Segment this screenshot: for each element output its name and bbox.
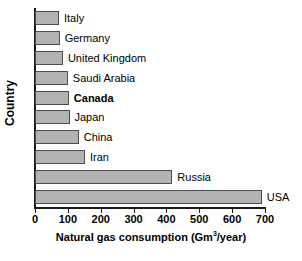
x-axis-title: Natural gas consumption (Gm3/year) bbox=[0, 230, 302, 243]
bar-row: Japan bbox=[35, 110, 265, 124]
bar-chart: Country ItalyGermanyUnited KingdomSaudi … bbox=[0, 0, 302, 261]
bar bbox=[35, 51, 63, 65]
bar-row: Germany bbox=[35, 31, 265, 45]
bar bbox=[35, 110, 70, 124]
bar-row: Saudi Arabia bbox=[35, 71, 265, 85]
bar bbox=[35, 31, 60, 45]
bar-label: United Kingdom bbox=[68, 51, 146, 65]
bar-row: United Kingdom bbox=[35, 51, 265, 65]
bar-row: Canada bbox=[35, 91, 265, 105]
y-axis-title: Country bbox=[0, 0, 20, 205]
bar bbox=[35, 71, 68, 85]
x-axis-tick-label: 400 bbox=[157, 213, 175, 225]
x-axis-title-suffix: /year) bbox=[217, 231, 246, 243]
bar bbox=[35, 150, 85, 164]
x-axis-tick-label: 700 bbox=[256, 213, 274, 225]
bar-label: Italy bbox=[64, 11, 84, 25]
bar bbox=[35, 190, 262, 204]
x-axis-title-prefix: Natural gas consumption (Gm bbox=[56, 231, 213, 243]
bar bbox=[35, 130, 79, 144]
plot-area: ItalyGermanyUnited KingdomSaudi ArabiaCa… bbox=[35, 8, 265, 207]
bar-row: Russia bbox=[35, 170, 265, 184]
bar bbox=[35, 11, 59, 25]
bar-label: Japan bbox=[75, 110, 105, 124]
bar-row: Italy bbox=[35, 11, 265, 25]
bar-label: Russia bbox=[177, 170, 211, 184]
y-axis-title-text: Country bbox=[3, 80, 17, 126]
bar-label: USA bbox=[267, 190, 290, 204]
x-axis-tick-label: 0 bbox=[32, 213, 38, 225]
bar-label: Canada bbox=[74, 91, 114, 105]
bar-row: Iran bbox=[35, 150, 265, 164]
bar-label: Saudi Arabia bbox=[73, 71, 135, 85]
x-axis-tick-label: 300 bbox=[124, 213, 142, 225]
bar-row: USA bbox=[35, 190, 265, 204]
bar bbox=[35, 170, 172, 184]
x-axis-tick-label: 600 bbox=[223, 213, 241, 225]
bar-label: Germany bbox=[65, 31, 110, 45]
x-axis-tick-label: 200 bbox=[92, 213, 110, 225]
bar-label: China bbox=[84, 130, 113, 144]
x-axis-tick-label: 500 bbox=[190, 213, 208, 225]
bar bbox=[35, 91, 69, 105]
bar-label: Iran bbox=[90, 150, 109, 164]
bar-row: China bbox=[35, 130, 265, 144]
x-axis-tick-label: 100 bbox=[59, 213, 77, 225]
